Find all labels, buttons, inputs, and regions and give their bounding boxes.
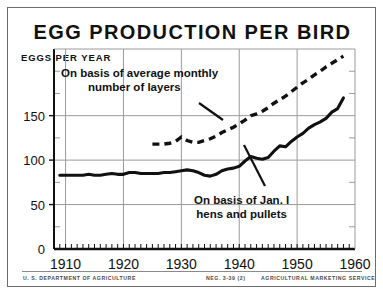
y-tick-100: 100 xyxy=(23,153,45,168)
footer-neg-code: NEG. 3-39 (2) xyxy=(206,275,245,281)
x-tick-1960: 1960 xyxy=(339,256,370,272)
x-tick-1910: 1910 xyxy=(50,256,81,272)
y-tick-0: 0 xyxy=(38,242,45,257)
x-axis-tick-labels: 191019201930194019501960 xyxy=(50,256,371,272)
plot-area: 050100150 191019201930194019501960 xyxy=(8,8,377,288)
series-jan-hens-pullets xyxy=(60,98,344,176)
y-tick-50: 50 xyxy=(31,198,45,213)
annotation-jan-hens-line2: hens and pullets xyxy=(194,207,289,221)
x-tick-1930: 1930 xyxy=(166,256,197,272)
annotation-monthly-layers-line1: On basis of average monthly xyxy=(61,67,218,79)
x-tick-1950: 1950 xyxy=(282,256,313,272)
screenshot-root: EGG PRODUCTION PER BIRD EGGS PER YEAR 05… xyxy=(0,0,383,294)
y-axis-tick-labels: 050100150 xyxy=(23,109,45,257)
annotation-jan-hens: On basis of Jan. I hens and pullets xyxy=(194,193,289,221)
y-tick-150: 150 xyxy=(23,109,45,124)
footer-agency-left: U. S. DEPARTMENT OF AGRICULTURE xyxy=(23,275,136,281)
x-tick-1940: 1940 xyxy=(224,256,255,272)
x-tick-1920: 1920 xyxy=(108,256,139,272)
footer-agency-right: AGRICULTURAL MARKETING SERVICE xyxy=(261,275,375,281)
footer-divider xyxy=(22,271,362,272)
chart-svg: 050100150 191019201930194019501960 xyxy=(8,8,377,288)
chart-card: EGG PRODUCTION PER BIRD EGGS PER YEAR 05… xyxy=(7,7,376,287)
annotation-jan-hens-line1: On basis of Jan. I xyxy=(194,194,289,206)
annotation-monthly-layers-line2: number of layers xyxy=(61,80,218,94)
annotation-monthly-layers: On basis of average monthly number of la… xyxy=(61,66,218,94)
